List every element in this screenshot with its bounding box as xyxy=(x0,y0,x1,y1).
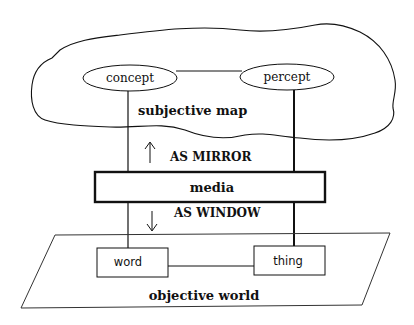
concept-label: concept xyxy=(106,71,154,85)
as-window-label: AS WINDOW xyxy=(173,206,261,220)
subjective-map-label: subjective map xyxy=(138,103,247,118)
objective-world-label: objective world xyxy=(149,288,260,303)
thing-label: thing xyxy=(273,254,303,268)
diagram-canvas: concept percept subjective map AS MIRROR… xyxy=(0,0,414,325)
word-label: word xyxy=(114,255,142,269)
as-mirror-label: AS MIRROR xyxy=(169,150,252,164)
percept-label: percept xyxy=(264,70,311,84)
up-arrow-icon xyxy=(145,142,155,163)
media-label: media xyxy=(190,180,235,195)
down-arrow-icon xyxy=(147,211,157,231)
